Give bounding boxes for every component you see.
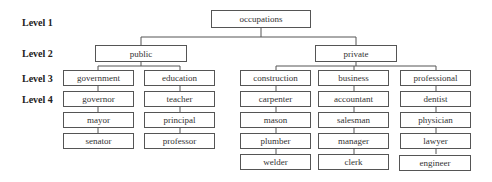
level-3-label: Level 3 bbox=[22, 73, 53, 84]
node-public: public bbox=[95, 45, 187, 62]
node-mayor: mayor bbox=[63, 112, 134, 128]
node-governor: governor bbox=[63, 91, 134, 107]
node-welder: welder bbox=[240, 154, 311, 170]
node-dentist: dentist bbox=[400, 91, 471, 107]
level-2-label: Level 2 bbox=[22, 48, 53, 59]
node-principal: principal bbox=[144, 112, 215, 128]
node-engineer: engineer bbox=[399, 155, 471, 171]
node-physician: physician bbox=[400, 112, 471, 128]
node-occupations: occupations bbox=[211, 10, 311, 28]
node-education: education bbox=[144, 70, 215, 86]
node-professional: professional bbox=[400, 70, 471, 86]
node-teacher: teacher bbox=[144, 91, 215, 107]
level-1-label: Level 1 bbox=[22, 17, 53, 28]
node-construction: construction bbox=[240, 70, 311, 86]
node-salesman: salesman bbox=[318, 112, 389, 128]
level-4-label: Level 4 bbox=[22, 94, 53, 105]
node-senator: senator bbox=[63, 133, 134, 149]
node-professor: professor bbox=[144, 133, 215, 149]
node-government: government bbox=[63, 70, 134, 86]
node-mason: mason bbox=[240, 112, 311, 128]
node-carpenter: carpenter bbox=[240, 91, 311, 107]
node-lawyer: lawyer bbox=[400, 133, 471, 149]
node-private: private bbox=[315, 45, 397, 62]
node-clerk: clerk bbox=[318, 154, 389, 170]
node-plumber: plumber bbox=[240, 133, 311, 149]
node-business: business bbox=[318, 70, 389, 86]
node-accountant: accountant bbox=[318, 91, 389, 107]
node-manager: manager bbox=[318, 133, 389, 149]
